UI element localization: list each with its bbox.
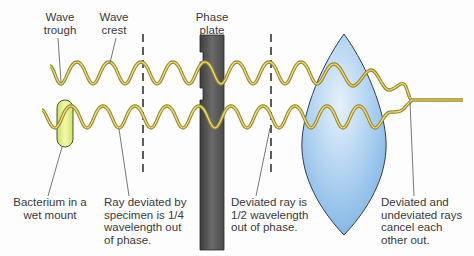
leader-bacterium [48, 147, 62, 196]
label-cancel: Deviated and undeviated rays cancel each… [381, 196, 471, 246]
leader-wave-crest [110, 38, 116, 63]
leader-cancel [410, 102, 414, 196]
label-deviated-half: Deviated ray is 1/2 wavelength out of ph… [231, 196, 315, 234]
label-bacterium: Bacterium in a wet mount [12, 196, 88, 221]
label-wave-crest: Wave crest [98, 11, 130, 36]
label-ray-deviated: Ray deviated by specimen is 1/4 waveleng… [104, 196, 192, 246]
leader-deviated-half [256, 128, 270, 196]
leader-ray-deviated [119, 129, 129, 196]
phase-contrast-diagram: Wave trough Wave crest Phase plate Bacte… [0, 0, 474, 256]
leader-wave-trough [58, 38, 61, 82]
label-wave-trough: Wave trough [38, 11, 82, 36]
undeviated-wave [50, 62, 463, 100]
label-phase-plate: Phase plate [194, 11, 230, 36]
